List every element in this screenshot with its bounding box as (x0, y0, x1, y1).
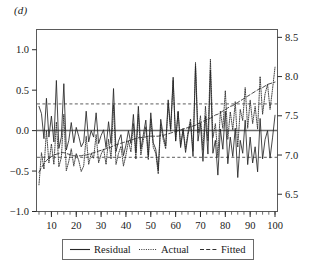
x-tick-label: 80 (220, 220, 231, 231)
right-tick-label: 6.5 (285, 189, 298, 200)
left-tick-label: 0.5 (16, 85, 29, 96)
x-tick-label: 10 (46, 220, 57, 231)
left-tick-label: 1.0 (16, 44, 29, 55)
x-tick-label: 70 (195, 220, 206, 231)
right-tick-label: 7.0 (285, 150, 298, 161)
x-tick-label: 100 (267, 220, 283, 231)
legend-label-fitted[interactable]: Fitted (221, 244, 246, 255)
legend: ResidualActualFitted (63, 240, 254, 260)
left-tick-label: −1.0 (10, 206, 29, 217)
figure-panel-d: (d) 1020304050607080901001.00.50.0−0.5−1… (0, 0, 310, 266)
chart-canvas: 1020304050607080901001.00.50.0−0.5−1.08.… (0, 0, 310, 266)
left-axis: 1.00.50.0−0.5−1.0 (10, 44, 37, 217)
right-tick-label: 8.5 (285, 32, 298, 43)
right-axis: 8.58.07.57.06.5 (278, 32, 299, 200)
x-tick-label: 50 (146, 220, 157, 231)
right-tick-label: 7.5 (285, 110, 298, 121)
left-tick-label: 0.0 (16, 125, 29, 136)
x-tick-label: 60 (170, 220, 181, 231)
legend-label-actual[interactable]: Actual (161, 244, 189, 255)
plot-frame (37, 30, 278, 212)
x-tick-label: 20 (71, 220, 82, 231)
x-tick-label: 30 (96, 220, 107, 231)
x-tick-label: 40 (121, 220, 132, 231)
x-tick-label: 90 (245, 220, 256, 231)
x-axis-ticks: 102030405060708090100 (39, 212, 283, 231)
right-tick-label: 8.0 (285, 71, 298, 82)
legend-label-residual[interactable]: Residual (94, 244, 131, 255)
left-tick-label: −0.5 (10, 166, 29, 177)
series-actual (39, 59, 275, 185)
